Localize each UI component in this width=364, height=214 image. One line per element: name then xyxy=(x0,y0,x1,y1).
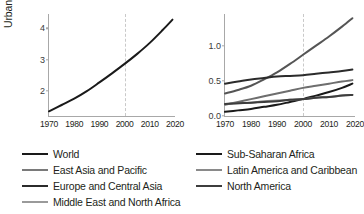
legend-item[interactable]: Europe and Central Asia xyxy=(22,178,180,194)
legend-item-label: East Asia and Pacific xyxy=(53,164,147,176)
x-axis-ticks: 197019801990200020102020 xyxy=(217,116,363,132)
series-lines xyxy=(225,14,355,116)
legend-line-swatch-icon xyxy=(22,153,48,156)
legend-column-left: WorldEast Asia and PacificEurope and Cen… xyxy=(22,146,180,210)
legend-line-swatch-icon xyxy=(22,185,48,187)
x-tick-label: 1990 xyxy=(268,119,286,129)
legend-item[interactable]: North America xyxy=(196,178,357,194)
plot-area-left: 234197019801990200020102020 xyxy=(48,14,175,117)
x-axis-ticks: 197019801990200020102020 xyxy=(41,116,183,132)
legend-item[interactable]: Middle East and North Africa xyxy=(22,194,180,210)
legend-line-swatch-icon xyxy=(196,153,222,155)
legend-item-label: Sub-Saharan Africa xyxy=(227,148,314,160)
legend-item[interactable]: East Asia and Pacific xyxy=(22,162,180,178)
legend-line-swatch-icon xyxy=(22,169,48,171)
x-tick-label: 2000 xyxy=(116,119,134,129)
x-tick-label: 2010 xyxy=(320,119,338,129)
legend-line-swatch-icon xyxy=(22,201,48,203)
x-tick-label: 2020 xyxy=(346,119,364,129)
x-tick-label: 2010 xyxy=(141,119,159,129)
legend-item-label: World xyxy=(53,148,79,160)
legend-item[interactable]: World xyxy=(22,146,180,162)
series-line-europe-and-central-asia xyxy=(225,70,352,84)
chart-panel-world: Urban population (billion) 2341970198019… xyxy=(0,0,182,142)
legend-item-label: Latin America and Caribbean xyxy=(227,164,357,176)
x-tick-label: 1990 xyxy=(90,119,108,129)
x-tick-label: 1970 xyxy=(216,119,234,129)
figure-urban-population: Urban population (billion) 2341970198019… xyxy=(0,0,364,214)
x-tick-label: 2000 xyxy=(294,119,312,129)
legend-line-swatch-icon xyxy=(196,169,222,171)
legend-item-label: Europe and Central Asia xyxy=(53,180,162,192)
y-axis-label-left: Urban population (billion) xyxy=(2,0,16,28)
legend-item-label: Middle East and North Africa xyxy=(53,196,180,208)
series-lines xyxy=(49,14,175,116)
legend-item-label: North America xyxy=(227,180,291,192)
plot-area-right: 0.00.51.0197019801990200020102020 xyxy=(224,14,355,117)
x-tick-label: 1980 xyxy=(65,119,83,129)
legend-item[interactable]: Latin America and Caribbean xyxy=(196,162,357,178)
chart-legend: WorldEast Asia and PacificEurope and Cen… xyxy=(0,146,364,214)
series-line-latin-america-and-caribbean xyxy=(225,80,352,105)
legend-line-swatch-icon xyxy=(196,185,222,187)
x-tick-label: 1970 xyxy=(40,119,58,129)
series-line-world xyxy=(49,20,172,112)
legend-column-right: Sub-Saharan AfricaLatin America and Cari… xyxy=(196,146,357,194)
legend-item[interactable]: Sub-Saharan Africa xyxy=(196,146,357,162)
x-tick-label: 1980 xyxy=(242,119,260,129)
chart-panel-regions: 0.00.51.0197019801990200020102020 xyxy=(182,0,364,142)
